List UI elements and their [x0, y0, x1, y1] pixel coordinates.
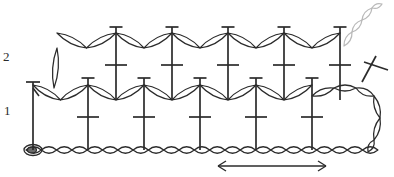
- foundation-chain-link: [347, 147, 362, 154]
- foundation-chain-link: [225, 147, 240, 154]
- row2-chain-arc-1-link-1: [57, 33, 87, 48]
- foundation-chain-link: [72, 147, 87, 154]
- row2-chain-arc-1-link-2: [87, 33, 117, 48]
- row1-chain-arc-3-link-1: [144, 85, 172, 100]
- crochet-chart-svg: [0, 0, 394, 177]
- foundation-chain-link: [179, 147, 194, 154]
- row2-chain-arc-4-link-1: [228, 33, 256, 48]
- foundation-chain-link: [118, 147, 133, 154]
- row1-chain-arc-5-link-2: [284, 85, 312, 100]
- crochet-diagram: 2 1: [0, 0, 394, 177]
- trailing-yarn-link-2: [352, 20, 362, 32]
- foundation-chain-link: [332, 147, 347, 154]
- row1-end-chain-link-6: [368, 140, 374, 152]
- foundation-chain-link: [194, 147, 209, 154]
- foundation-chain-link: [148, 147, 163, 154]
- row1-end-chain-link-3: [356, 88, 374, 96]
- foundation-chain-link: [271, 147, 286, 154]
- foundation-chain-link: [57, 147, 72, 154]
- row1-chain-arc-4-link-1: [200, 85, 228, 100]
- row1-chain-arc-5-link-1: [256, 85, 284, 100]
- row1-turning-chain-tick: [33, 88, 39, 96]
- foundation-chain-link: [133, 147, 148, 154]
- row2-chain-arc-4-link-2: [256, 33, 284, 48]
- foundation-chain-link: [301, 147, 316, 154]
- row1-end-chain-link-5: [374, 118, 381, 140]
- trailing-yarn-link-3: [362, 8, 372, 20]
- foundation-chain-link: [41, 147, 56, 154]
- row2-turning-chain-link: [53, 48, 59, 88]
- row1-end-chain-link-1: [312, 88, 334, 96]
- row2-end-post-stem: [362, 56, 376, 82]
- row2-chain-arc-5-link-2: [312, 33, 340, 48]
- row2-chain-arc-2-link-1: [116, 33, 144, 48]
- row2-chain-arc-3-link-1: [172, 33, 200, 48]
- row2-chain-arc-3-link-2: [200, 33, 228, 48]
- foundation-chain-link: [164, 147, 179, 154]
- row-label-2: 2: [3, 50, 10, 63]
- foundation-chain-link: [256, 147, 271, 154]
- row1-end-chain-link-2: [334, 85, 356, 91]
- row2-chain-arc-5-link-1: [284, 33, 312, 48]
- row2-chain-arc-2-link-2: [144, 33, 172, 48]
- foundation-chain-link: [317, 147, 332, 154]
- row1-end-chain-link-4: [374, 96, 381, 118]
- row1-chain-arc-1-link-2: [61, 85, 89, 100]
- slip-knot-inner: [28, 147, 37, 153]
- row1-chain-arc-2-link-2: [116, 85, 144, 100]
- foundation-chain-link: [210, 147, 225, 154]
- foundation-chain-link: [240, 147, 255, 154]
- row2-end-post-crossbar: [364, 62, 388, 70]
- trailing-yarn-link-1: [344, 32, 352, 46]
- row1-chain-arc-2-link-1: [88, 85, 116, 100]
- row-label-1: 1: [4, 104, 11, 117]
- row1-chain-arc-3-link-2: [172, 85, 200, 100]
- foundation-chain-link: [87, 147, 102, 154]
- foundation-chain-link: [103, 147, 118, 154]
- row1-chain-arc-4-link-2: [228, 85, 256, 100]
- trailing-yarn-link-4: [372, 4, 382, 9]
- foundation-chain-link: [286, 147, 301, 154]
